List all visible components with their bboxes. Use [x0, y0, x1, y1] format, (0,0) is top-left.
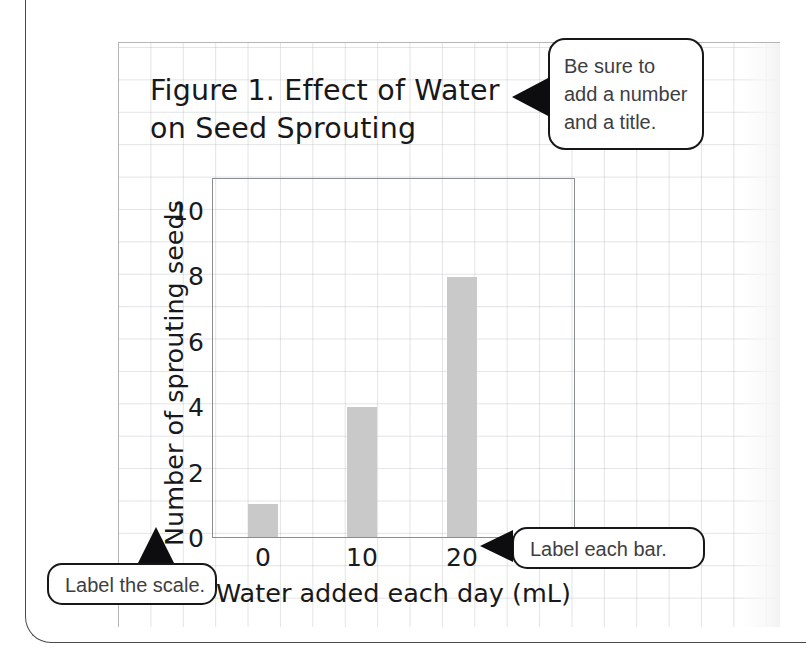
y-axis-title: Number of sprouting seeds	[159, 193, 189, 553]
y-tick-0: 0	[188, 524, 204, 553]
chart-title: Figure 1. Effect of Water on Seed Sprout…	[150, 72, 540, 148]
bars-layer	[212, 178, 575, 538]
bar-category-10	[347, 407, 377, 537]
y-tick-8: 8	[188, 262, 204, 291]
y-tick-2: 2	[188, 458, 204, 487]
x-tick-10: 10	[327, 543, 397, 572]
bar-category-20	[447, 277, 477, 537]
x-tick-0: 0	[228, 543, 298, 572]
bar-category-0	[248, 504, 278, 536]
chart-title-line-2: on Seed Sprouting	[150, 110, 540, 148]
callout-scale-note: Label the scale.	[47, 563, 217, 605]
x-axis-title: Water added each day (mL)	[212, 578, 575, 608]
callout-arrow-title-icon	[512, 77, 550, 117]
callout-title-line-1: Be sure to	[564, 52, 702, 80]
callout-bar-note: Label each bar.	[512, 527, 705, 569]
callout-arrow-bar-icon	[480, 530, 513, 562]
y-tick-6: 6	[188, 327, 204, 356]
callout-title-line-3: and a title.	[564, 108, 702, 136]
callout-arrow-scale-icon	[138, 527, 174, 563]
y-tick-4: 4	[188, 393, 204, 422]
chart-title-line-1: Figure 1. Effect of Water	[150, 72, 540, 110]
callout-title-note: Be sure to add a number and a title.	[548, 38, 704, 150]
callout-title-line-2: add a number	[564, 80, 702, 108]
